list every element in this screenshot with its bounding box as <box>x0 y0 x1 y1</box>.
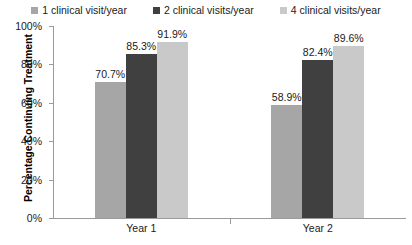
y-axis-tick-label: 0% <box>27 212 42 224</box>
bar-value-label: 58.9% <box>272 91 302 103</box>
bar[interactable]: 82.4% <box>302 60 333 218</box>
legend-swatch-3 <box>280 7 287 14</box>
chart-legend: 1 clinical visit/year 2 clinical visits/… <box>0 2 412 18</box>
y-axis-tick-label: 60% <box>21 97 42 109</box>
bar-value-label: 89.6% <box>334 32 364 44</box>
x-axis-group-label: Year 1 <box>126 222 156 234</box>
bar[interactable]: 91.9% <box>157 42 188 218</box>
y-axis-tick: 20% <box>49 180 53 181</box>
bar-value-label: 82.4% <box>303 46 333 58</box>
bar-value-label: 70.7% <box>95 68 125 80</box>
legend-label-2: 2 clinical visits/year <box>164 5 254 16</box>
bar-value-label: 85.3% <box>126 40 156 52</box>
legend-item-3[interactable]: 4 clinical visits/year <box>280 5 381 16</box>
y-axis-tick-label: 20% <box>21 174 42 186</box>
y-axis-tick: 0% <box>49 218 53 219</box>
bar[interactable]: 70.7% <box>95 82 126 218</box>
bar[interactable]: 89.6% <box>333 46 364 218</box>
bar-value-label: 91.9% <box>157 28 187 40</box>
y-axis-line <box>53 26 54 218</box>
bar[interactable]: 58.9% <box>271 105 302 218</box>
legend-label-1: 1 clinical visit/year <box>42 5 127 16</box>
legend-label-3: 4 clinical visits/year <box>291 5 381 16</box>
y-axis-tick-label: 100% <box>15 20 42 32</box>
legend-item-1[interactable]: 1 clinical visit/year <box>31 5 127 16</box>
bar-chart: 1 clinical visit/year 2 clinical visits/… <box>0 0 412 245</box>
y-axis-tick: 40% <box>49 141 53 142</box>
plot-area: 0%20%40%60%80%100% 70.7%85.3%91.9%58.9%8… <box>53 26 406 218</box>
y-axis-tick-label: 40% <box>21 135 42 147</box>
bar[interactable]: 85.3% <box>126 54 157 218</box>
y-axis-tick-label: 80% <box>21 58 42 70</box>
y-axis-tick: 100% <box>49 26 53 27</box>
y-axis-tick: 80% <box>49 64 53 65</box>
legend-item-2[interactable]: 2 clinical visits/year <box>153 5 254 16</box>
x-axis-group-label: Year 2 <box>303 222 333 234</box>
y-axis-tick: 60% <box>49 103 53 104</box>
x-axis-group-tick <box>230 218 231 224</box>
legend-swatch-1 <box>31 7 38 14</box>
legend-swatch-2 <box>153 7 160 14</box>
